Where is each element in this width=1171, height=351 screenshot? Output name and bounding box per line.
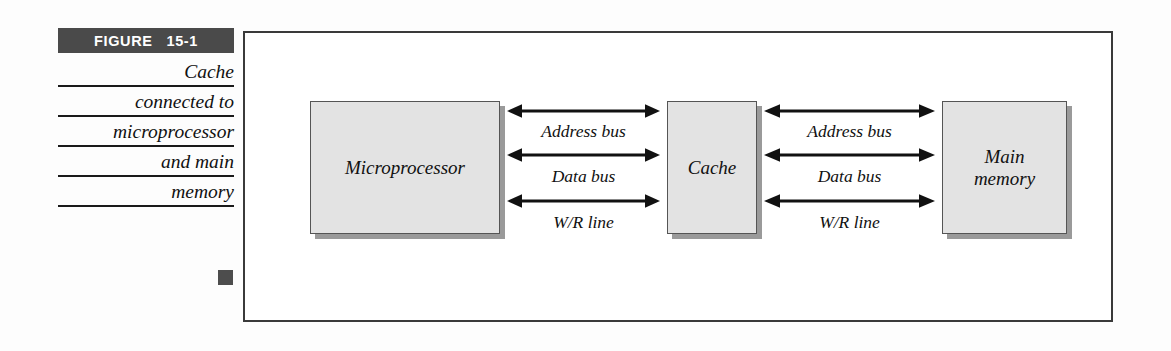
wr-line-label: W/R line [507,212,660,233]
wr-line-arrow-icon [764,193,935,209]
caption-line-text: connected to [135,91,234,112]
figure-page: FIGURE 15-1 Cache connected to microproc… [0,0,1171,351]
figure-number-badge: FIGURE 15-1 [58,28,234,53]
address-bus-arrow-icon [507,103,660,119]
figure-frame: Microprocessor Address bus Data bus [243,31,1113,322]
wr-line-label: W/R line [764,212,935,233]
caption-end-square-marker [218,270,233,285]
diagram-node-label: Mainmemory [974,146,1035,189]
diagram-node-label: Cache [688,157,737,178]
caption-line: microprocessor [58,117,234,147]
data-bus-label: Data bus [764,166,935,187]
address-bus-arrow-icon [764,103,935,119]
bus-group-cache-main-memory: Address bus Data bus W/R line [764,101,935,241]
wr-line-arrow-icon [507,193,660,209]
caption-line: connected to [58,87,234,117]
bus-group-microprocessor-cache: Address bus Data bus W/R line [507,101,660,241]
caption-line-text: microprocessor [113,121,234,142]
caption-line: Cache [58,57,234,87]
caption-line-text: and main [161,151,234,172]
figure-badge-word: FIGURE [94,33,152,49]
figure-badge-number: 15-1 [166,33,197,49]
diagram-node-label: Microprocessor [345,157,465,178]
caption-line: memory [58,177,234,207]
caption-line-text: Cache [184,61,234,82]
diagram-node-main-memory: Mainmemory [942,101,1067,234]
data-bus-arrow-icon [507,147,660,163]
caption-rule [58,205,234,207]
address-bus-label: Address bus [507,121,660,142]
address-bus-label: Address bus [764,121,935,142]
data-bus-label: Data bus [507,166,660,187]
figure-caption-lines: Cache connected to microprocessor and ma… [58,57,234,207]
diagram-node-microprocessor: Microprocessor [310,101,500,234]
caption-line-text: memory [171,181,234,202]
data-bus-arrow-icon [764,147,935,163]
caption-line: and main [58,147,234,177]
diagram-node-cache: Cache [667,101,757,234]
